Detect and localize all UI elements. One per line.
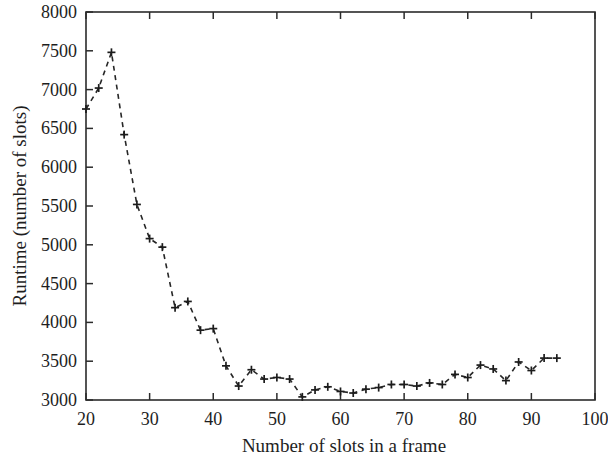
data-point-marker	[362, 385, 370, 393]
y-axis-label: Runtime (number of slots)	[9, 105, 31, 306]
y-tick-label-3500: 3500	[41, 351, 77, 371]
x-tick-label-20: 20	[77, 409, 95, 429]
data-point-marker	[349, 389, 357, 397]
data-point-marker	[273, 373, 281, 381]
runtime-vs-slots-chart: 3000350040004500500055006000650070007500…	[0, 0, 608, 462]
data-point-marker	[120, 131, 128, 139]
x-tick-label-40: 40	[204, 409, 222, 429]
y-tick-label-6000: 6000	[41, 157, 77, 177]
y-tick-label-5000: 5000	[41, 235, 77, 255]
x-tick-label-100: 100	[582, 409, 608, 429]
data-point-marker	[413, 382, 421, 390]
data-point-marker	[400, 380, 408, 388]
x-tick-label-60: 60	[332, 409, 350, 429]
y-tick-label-6500: 6500	[41, 118, 77, 138]
data-point-marker	[311, 386, 319, 394]
x-tick-label-80: 80	[459, 409, 477, 429]
data-point-marker	[324, 383, 332, 391]
x-tick-label-50: 50	[268, 409, 286, 429]
y-tick-label-8000: 8000	[41, 2, 77, 22]
data-point-marker	[235, 382, 243, 390]
data-point-marker	[553, 354, 561, 362]
y-tick-label-4500: 4500	[41, 274, 77, 294]
x-axis-label: Number of slots in a frame	[242, 435, 446, 456]
x-tick-label-70: 70	[395, 409, 413, 429]
y-tick-label-7500: 7500	[41, 41, 77, 61]
x-axis-ticks	[86, 12, 595, 400]
data-point-marker	[222, 362, 230, 370]
x-tick-label-90: 90	[522, 409, 540, 429]
y-tick-label-4000: 4000	[41, 312, 77, 332]
x-axis-tick-labels: 2030405060708090100	[77, 409, 608, 429]
data-point-marker	[184, 297, 192, 305]
y-tick-label-5500: 5500	[41, 196, 77, 216]
data-point-marker	[375, 384, 383, 392]
runtime-series-line	[86, 52, 557, 397]
y-axis-ticks	[86, 12, 93, 400]
plot-frame	[86, 12, 595, 400]
data-point-marker	[158, 243, 166, 251]
data-point-marker	[387, 380, 395, 388]
data-point-marker	[197, 326, 205, 334]
data-point-marker	[107, 48, 115, 56]
x-tick-label-30: 30	[141, 409, 159, 429]
data-point-marker	[451, 370, 459, 378]
data-point-marker	[515, 358, 523, 366]
data-point-marker	[209, 325, 217, 333]
data-point-marker	[260, 375, 268, 383]
data-point-marker	[95, 84, 103, 92]
data-point-marker	[426, 379, 434, 387]
runtime-series-markers	[82, 48, 561, 401]
y-tick-label-3000: 3000	[41, 390, 77, 410]
data-point-marker	[133, 200, 141, 208]
data-point-marker	[171, 304, 179, 312]
data-point-marker	[337, 387, 345, 395]
y-tick-label-7000: 7000	[41, 80, 77, 100]
data-point-marker	[82, 105, 90, 113]
y-axis-tick-labels: 3000350040004500500055006000650070007500…	[41, 2, 77, 410]
